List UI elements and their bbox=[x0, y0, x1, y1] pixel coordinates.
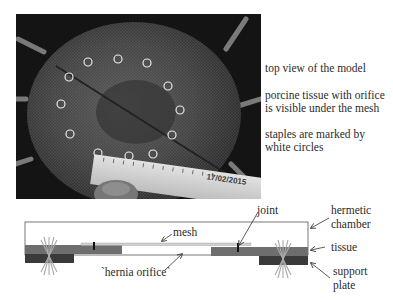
caption-porcine-tissue: porcine tissue with orifice is visible u… bbox=[265, 89, 393, 115]
joint-right bbox=[237, 243, 239, 252]
tissue-arrow bbox=[311, 247, 325, 250]
caption-staples: staples are marked by white circles bbox=[265, 128, 385, 154]
label-hermetic: hermetic bbox=[331, 204, 371, 216]
label-joint: joint bbox=[256, 204, 279, 217]
hermetic-chamber-arrow bbox=[311, 218, 329, 228]
caption-top-view: top view of the model bbox=[265, 62, 393, 75]
label-hernia-orifice: `hernia orifice` bbox=[101, 266, 170, 278]
model-top-view-photo: 17/02/2015 bbox=[16, 14, 261, 199]
tissue-left bbox=[25, 245, 122, 254]
label-mesh: mesh bbox=[173, 226, 198, 238]
support-plate-arrow bbox=[311, 263, 330, 278]
mesh bbox=[81, 243, 251, 246]
label-tissue: tissue bbox=[331, 241, 357, 253]
tissue-right bbox=[211, 247, 308, 256]
label-support: support bbox=[333, 265, 368, 278]
photo-illustration: 17/02/2015 bbox=[16, 14, 261, 199]
joint-left bbox=[93, 242, 95, 250]
label-plate: plate bbox=[333, 279, 355, 292]
label-chamber: chamber bbox=[331, 218, 371, 230]
cross-section-diagram: joint mesh `hernia orifice` hermetic cha… bbox=[0, 195, 393, 302]
